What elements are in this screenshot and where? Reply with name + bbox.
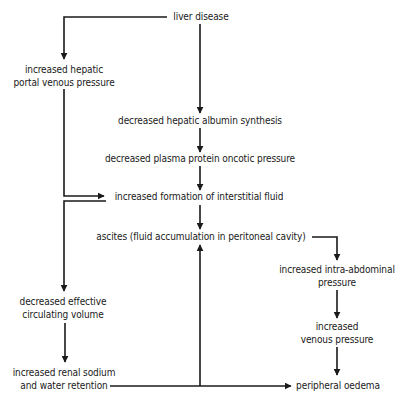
node-label: increased renal sodium — [13, 366, 116, 379]
node-label: circulating volume — [20, 308, 107, 321]
node-label: increased formation of interstitial flui… — [115, 190, 284, 203]
node-intra-abdominal-pressure: increased intra-abdominal pressure — [279, 263, 395, 289]
node-albumin-synthesis: decreased hepatic albumin synthesis — [118, 114, 282, 127]
node-label: peripheral oedema — [296, 379, 380, 392]
node-label: venous pressure — [301, 333, 374, 346]
node-label: increased hepatic — [13, 63, 114, 76]
node-ascites: ascites (fluid accumulation in peritonea… — [96, 230, 305, 243]
node-label: portal venous pressure — [13, 76, 114, 89]
node-label: increased — [301, 320, 374, 333]
node-venous-pressure: increased venous pressure — [301, 320, 374, 346]
edge-portal-to-interstitial — [64, 89, 104, 196]
edge-liver-to-portal — [64, 17, 167, 59]
node-peripheral-oedema: peripheral oedema — [296, 379, 380, 392]
node-renal-retention: increased renal sodium and water retenti… — [13, 366, 116, 392]
node-interstitial-fluid: increased formation of interstitial flui… — [115, 190, 284, 203]
node-oncotic-pressure: decreased plasma protein oncotic pressur… — [105, 152, 295, 165]
node-circulating-volume: decreased effective circulating volume — [20, 295, 107, 321]
node-portal-venous-pressure: increased hepatic portal venous pressure — [13, 63, 114, 89]
edge-interstitial-to-volume — [64, 201, 106, 291]
node-label: ascites (fluid accumulation in peritonea… — [96, 230, 305, 243]
node-label: liver disease — [173, 10, 228, 23]
flow-diagram: liver disease increased hepatic portal v… — [0, 0, 408, 398]
node-label: and water retention — [13, 379, 116, 392]
node-label: increased intra-abdominal — [279, 263, 395, 276]
edge-ascites-to-intra-abdominal — [312, 237, 337, 260]
node-label: decreased hepatic albumin synthesis — [118, 114, 282, 127]
node-label: decreased effective — [20, 295, 107, 308]
node-label: decreased plasma protein oncotic pressur… — [105, 152, 295, 165]
node-liver-disease: liver disease — [173, 10, 228, 23]
node-label: pressure — [279, 276, 395, 289]
